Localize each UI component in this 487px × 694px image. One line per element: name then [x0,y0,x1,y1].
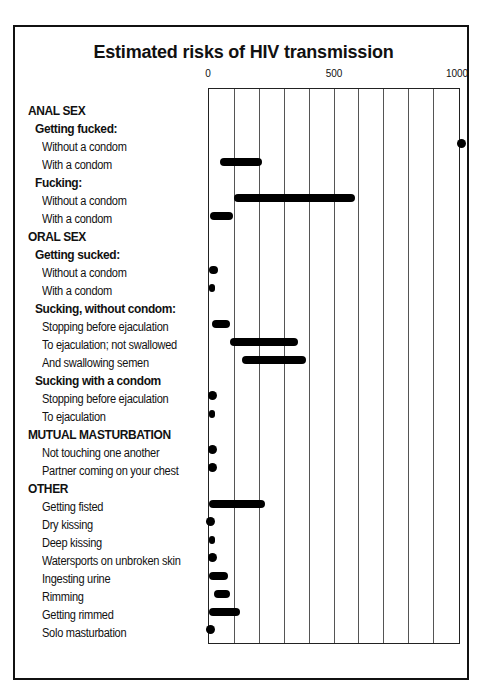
gridline [433,89,434,643]
row-label: Not touching one another [42,444,159,462]
row-label: Stopping before ejaculation [42,318,168,336]
row-label: Solo masturbation [42,624,126,642]
row-label: Getting fisted [42,498,103,516]
subcategory-heading: Getting sucked: [35,246,120,264]
risk-range-bar [220,158,261,166]
risk-point [208,391,217,400]
chart-title: Estimated risks of HIV transmission [0,42,487,63]
plot-area [208,88,460,644]
risk-range-bar [209,572,228,580]
subcategory-heading: Sucking with a condom [35,372,161,390]
category-heading: MUTUAL MASTURBATION [28,426,171,444]
risk-range-bar [209,410,215,418]
gridline [259,89,260,643]
category-heading: OTHER [28,480,68,498]
risk-range-bar [210,212,233,220]
subcategory-heading: Fucking: [35,174,82,192]
risk-point [208,553,217,562]
subcategory-heading: Sucking, without condom: [35,300,176,318]
row-label: Rimming [42,588,84,606]
gridline [334,89,335,643]
risk-range-bar [212,320,231,328]
risk-point [208,445,217,454]
row-label: With a condom [42,210,112,228]
row-label: Without a condom [42,138,127,156]
gridline [309,89,310,643]
category-heading: ANAL SEX [28,102,85,120]
risk-range-bar [242,356,306,364]
x-tick-500: 500 [326,68,343,79]
gridline [383,89,384,643]
row-label: Without a condom [42,264,127,282]
row-label: With a condom [42,282,112,300]
row-label: Deep kissing [42,534,102,552]
risk-point [206,625,215,634]
row-label: Without a condom [42,192,127,210]
gridline [284,89,285,643]
risk-range-bar [230,338,298,346]
gridline [234,89,235,643]
row-label: To ejaculation [42,408,106,426]
row-label: Partner coming on your chest [42,462,178,480]
gridline [408,89,409,643]
risk-range-bar [209,500,265,508]
x-tick-0: 0 [205,68,211,79]
risk-range-bar [209,284,215,292]
risk-range-bar [214,590,230,598]
risk-range-bar [209,536,215,544]
risk-point [208,463,217,472]
risk-range-bar [209,608,240,616]
row-label: Stopping before ejaculation [42,390,168,408]
risk-range-bar [209,266,218,274]
risk-range-bar [234,194,354,202]
gridline [358,89,359,643]
row-label: Watersports on unbroken skin [42,552,181,570]
subcategory-heading: Getting fucked: [35,120,117,138]
x-tick-1000: 1000 [446,68,468,79]
row-label: Getting rimmed [42,606,114,624]
row-label: Dry kissing [42,516,93,534]
row-label: Ingesting urine [42,570,110,588]
category-heading: ORAL SEX [28,228,86,246]
row-label: And swallowing semen [42,354,149,372]
row-label: To ejaculation; not swallowed [42,336,177,354]
row-label: With a condom [42,156,112,174]
risk-point [457,139,466,148]
